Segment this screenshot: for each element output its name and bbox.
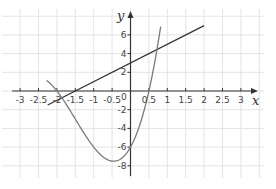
y-tick-label: 4 [121, 49, 127, 59]
x-tick-label: -2 [52, 95, 61, 105]
chart: -3-2.5-2-1.5-1-0.50.511.522.53642-2-4-6-… [0, 0, 276, 189]
x-axis-label: x [252, 93, 260, 108]
x-tick-label: -0.5 [103, 95, 121, 105]
x-tick-label: 2.5 [215, 95, 229, 105]
curve-series [47, 27, 161, 162]
y-tick-label: 2 [121, 67, 127, 77]
y-tick-label: -6 [118, 142, 127, 152]
x-tick-label: -1.5 [67, 95, 85, 105]
y-axis-arrow-icon [128, 11, 134, 18]
axes [12, 11, 258, 176]
x-tick-label: 2 [201, 95, 207, 105]
x-tick-label: -2.5 [30, 95, 48, 105]
y-tick-label: -8 [118, 161, 127, 171]
x-tick-label: 1 [164, 95, 170, 105]
y-tick-label: 6 [121, 30, 127, 40]
x-tick-label: 3 [238, 95, 244, 105]
y-tick-label: -2 [118, 105, 127, 115]
x-tick-label: 1.5 [179, 95, 193, 105]
y-axis-label: y [116, 8, 125, 23]
x-tick-label: -3 [16, 95, 25, 105]
x-tick-label: -1 [89, 95, 98, 105]
grid [2, 9, 264, 178]
x-tick-label: 0.5 [142, 95, 156, 105]
origin-label: 0 [121, 92, 127, 102]
y-tick-label: -4 [118, 123, 127, 133]
